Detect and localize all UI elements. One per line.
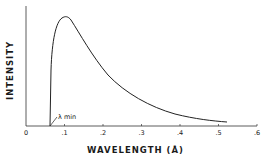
chart-svg: 0 .1 .2 .3 .4 .5 .6 λ min: [0, 0, 271, 164]
lambda-min-pointer: [50, 117, 57, 126]
spectrum-curve: [50, 17, 227, 126]
x-axis-title: WAVELENGTH (Å): [0, 145, 271, 155]
tick-label: .6: [254, 129, 260, 137]
tick-label: .1: [61, 129, 67, 137]
tick-label: .5: [215, 129, 221, 137]
tick-label: .3: [138, 129, 144, 137]
x-tick-labels: 0 .1 .2 .3 .4 .5 .6: [24, 129, 260, 137]
lambda-min-label: λ min: [58, 113, 76, 121]
tick-label: .4: [177, 129, 183, 137]
xray-spectrum-chart: 0 .1 .2 .3 .4 .5 .6 λ min WAVELENGTH (Å)…: [0, 0, 271, 164]
tick-label: .2: [100, 129, 106, 137]
tick-label: 0: [24, 129, 28, 137]
y-axis-title: INTENSITY: [5, 41, 15, 100]
